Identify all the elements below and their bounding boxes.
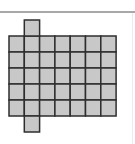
grid-cell bbox=[86, 52, 101, 68]
grid-cell bbox=[86, 100, 101, 116]
grid-cell bbox=[24, 52, 39, 68]
grid-cell bbox=[40, 68, 55, 84]
grid-cell bbox=[55, 84, 70, 100]
grid-cell bbox=[55, 68, 70, 84]
grid-cell bbox=[70, 36, 85, 52]
extra-cell-below bbox=[24, 116, 39, 132]
grid-cell bbox=[24, 100, 39, 116]
grid-cell bbox=[86, 36, 101, 52]
grid-net-diagram bbox=[0, 0, 135, 144]
grid-cell bbox=[24, 84, 39, 100]
grid-cell bbox=[101, 36, 116, 52]
grid-cell bbox=[70, 68, 85, 84]
grid-cell bbox=[9, 52, 24, 68]
grid-cell bbox=[101, 52, 116, 68]
grid-cell bbox=[24, 36, 39, 52]
grid-cell bbox=[101, 100, 116, 116]
grid-cell bbox=[70, 100, 85, 116]
grid-cell bbox=[70, 84, 85, 100]
grid-cell bbox=[40, 84, 55, 100]
grid-cell bbox=[9, 68, 24, 84]
extra-cell-above bbox=[24, 20, 39, 36]
grid-cell bbox=[86, 68, 101, 84]
grid-cell bbox=[9, 84, 24, 100]
grid-cell bbox=[9, 36, 24, 52]
grid-cell bbox=[55, 36, 70, 52]
grid-cell bbox=[101, 84, 116, 100]
grid-cell bbox=[40, 52, 55, 68]
grid-cell bbox=[70, 52, 85, 68]
grid-cell bbox=[40, 100, 55, 116]
grid-cell bbox=[40, 36, 55, 52]
grid-cell bbox=[55, 52, 70, 68]
grid-cell bbox=[55, 100, 70, 116]
grid-cell bbox=[9, 100, 24, 116]
grid-cell bbox=[101, 68, 116, 84]
grid-cell bbox=[24, 68, 39, 84]
grid-cell bbox=[86, 84, 101, 100]
